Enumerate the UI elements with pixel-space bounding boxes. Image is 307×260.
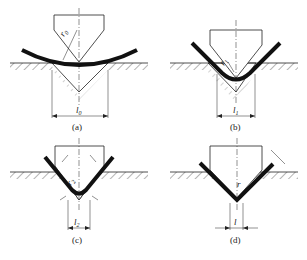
panel-b: r1 l1 (b): [170, 20, 298, 132]
width-label-d: l: [234, 217, 237, 227]
width-label-c: l2: [74, 217, 80, 228]
radius-label-d: r: [237, 179, 241, 189]
width-label-b: l1: [233, 105, 239, 116]
panel-d: r l (d): [170, 138, 298, 245]
panel-a: r0 l0 (a): [10, 8, 148, 132]
caption-b: (b): [230, 122, 241, 132]
bending-process-diagram: r0 l0 (a) r1 l1 (b): [0, 0, 307, 260]
width-label-a: l0: [76, 105, 82, 116]
caption-d: (d): [230, 235, 241, 245]
caption-a: (a): [72, 122, 82, 132]
panel-c: r2 l2 (c): [10, 138, 148, 245]
caption-c: (c): [72, 235, 82, 245]
